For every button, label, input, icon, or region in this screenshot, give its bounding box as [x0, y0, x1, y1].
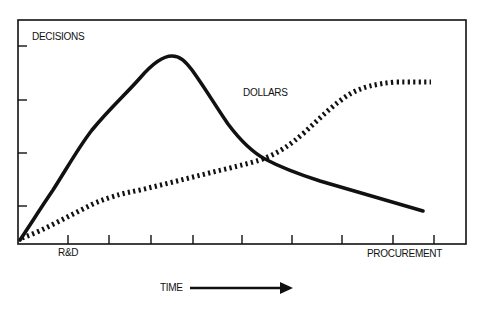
- x-axis-ticks: [68, 235, 434, 244]
- decisions-curve: [20, 56, 423, 240]
- procurement-label: PROCUREMENT: [367, 248, 442, 259]
- dollars-label: DOLLARS: [243, 87, 288, 98]
- dollars-curve: [22, 82, 431, 238]
- plot-frame: [18, 20, 466, 244]
- arrow-right-icon: [280, 282, 293, 294]
- rnd-label: R&D: [58, 247, 78, 258]
- time-label: TIME: [160, 282, 183, 293]
- y-axis-ticks: [18, 46, 27, 206]
- diagram-canvas: [0, 0, 482, 309]
- decisions-label: DECISIONS: [32, 31, 84, 42]
